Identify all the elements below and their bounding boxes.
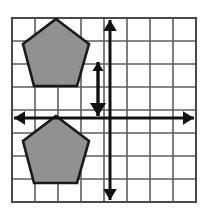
coordinate-plane-figure (0, 0, 214, 214)
figure-container (0, 0, 214, 214)
figure-background (0, 0, 214, 214)
